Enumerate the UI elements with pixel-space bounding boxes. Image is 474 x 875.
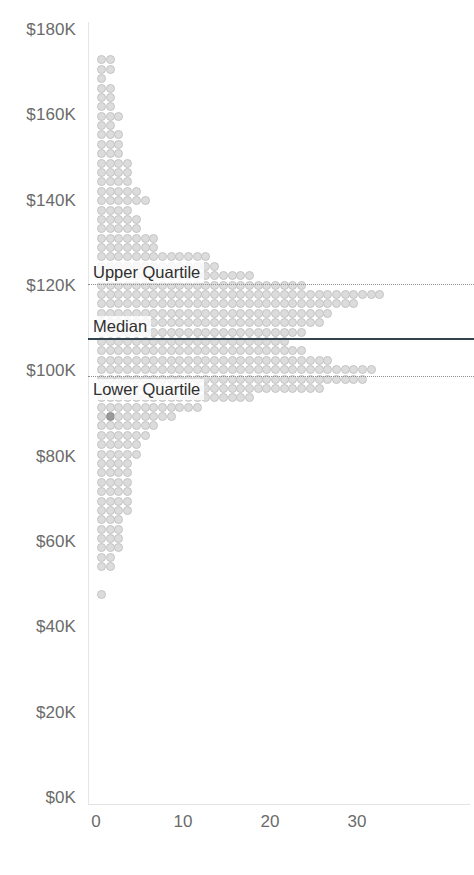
data-point[interactable] — [97, 431, 106, 440]
data-point[interactable] — [280, 346, 289, 355]
data-point[interactable] — [280, 299, 289, 308]
data-point[interactable] — [97, 140, 106, 149]
data-point[interactable] — [97, 206, 106, 215]
data-point[interactable] — [158, 309, 167, 318]
data-point[interactable] — [141, 431, 150, 440]
data-point[interactable] — [97, 215, 106, 224]
data-point[interactable] — [175, 346, 184, 355]
data-point[interactable] — [149, 234, 158, 243]
data-point[interactable] — [349, 365, 358, 374]
data-point[interactable] — [175, 365, 184, 374]
data-point[interactable] — [114, 365, 123, 374]
data-point[interactable] — [167, 309, 176, 318]
data-point[interactable] — [123, 403, 132, 412]
data-point[interactable] — [332, 290, 341, 299]
data-point[interactable] — [228, 299, 237, 308]
data-point[interactable] — [141, 299, 150, 308]
data-point[interactable] — [315, 356, 324, 365]
data-point[interactable] — [219, 328, 228, 337]
data-point[interactable] — [271, 384, 280, 393]
data-point[interactable] — [306, 356, 315, 365]
data-point[interactable] — [106, 130, 115, 139]
data-point[interactable] — [306, 384, 315, 393]
data-point[interactable] — [184, 309, 193, 318]
data-point[interactable] — [228, 309, 237, 318]
data-point[interactable] — [167, 403, 176, 412]
data-point[interactable] — [288, 299, 297, 308]
data-point[interactable] — [219, 356, 228, 365]
data-point[interactable] — [236, 365, 245, 374]
data-point[interactable] — [97, 440, 106, 449]
data-point[interactable] — [132, 346, 141, 355]
data-point[interactable] — [97, 290, 106, 299]
data-point[interactable] — [106, 421, 115, 430]
data-point[interactable] — [123, 299, 132, 308]
data-point[interactable] — [149, 346, 158, 355]
data-point[interactable] — [323, 365, 332, 374]
data-point[interactable] — [97, 196, 106, 205]
data-point[interactable] — [97, 252, 106, 261]
data-point[interactable] — [245, 365, 254, 374]
data-point[interactable] — [306, 290, 315, 299]
data-point[interactable] — [114, 525, 123, 534]
data-point[interactable] — [297, 318, 306, 327]
data-point[interactable] — [123, 487, 132, 496]
data-point[interactable] — [219, 393, 228, 402]
data-point[interactable] — [201, 318, 210, 327]
data-point[interactable] — [271, 356, 280, 365]
data-point[interactable] — [132, 440, 141, 449]
data-point[interactable] — [106, 431, 115, 440]
data-point[interactable] — [132, 431, 141, 440]
data-point[interactable] — [106, 84, 115, 93]
data-point[interactable] — [184, 346, 193, 355]
data-point[interactable] — [167, 356, 176, 365]
data-point[interactable] — [114, 356, 123, 365]
data-point[interactable] — [97, 525, 106, 534]
data-point[interactable] — [114, 243, 123, 252]
data-point[interactable] — [219, 309, 228, 318]
data-point[interactable] — [106, 459, 115, 468]
data-point[interactable] — [123, 290, 132, 299]
data-point[interactable] — [97, 243, 106, 252]
data-point[interactable] — [210, 365, 219, 374]
data-point[interactable] — [271, 365, 280, 374]
data-point[interactable] — [184, 290, 193, 299]
data-point[interactable] — [132, 215, 141, 224]
data-point[interactable] — [114, 252, 123, 261]
data-point[interactable] — [123, 450, 132, 459]
data-point[interactable] — [114, 412, 123, 421]
data-point[interactable] — [219, 299, 228, 308]
data-point[interactable] — [245, 384, 254, 393]
data-point[interactable] — [262, 356, 271, 365]
data-point[interactable] — [254, 299, 263, 308]
data-point[interactable] — [114, 130, 123, 139]
data-point[interactable] — [167, 346, 176, 355]
data-point[interactable] — [175, 309, 184, 318]
data-point[interactable] — [132, 243, 141, 252]
data-point[interactable] — [306, 318, 315, 327]
data-point[interactable] — [123, 459, 132, 468]
data-point[interactable] — [184, 328, 193, 337]
data-point[interactable] — [288, 290, 297, 299]
data-point[interactable] — [288, 328, 297, 337]
data-point[interactable] — [114, 450, 123, 459]
data-point[interactable] — [97, 543, 106, 552]
data-point[interactable] — [323, 309, 332, 318]
data-point[interactable] — [245, 356, 254, 365]
data-point[interactable] — [97, 168, 106, 177]
data-point[interactable] — [297, 384, 306, 393]
data-point[interactable] — [106, 187, 115, 196]
data-point[interactable] — [106, 149, 115, 158]
data-point[interactable] — [228, 281, 237, 290]
data-point[interactable] — [271, 346, 280, 355]
data-point[interactable] — [341, 365, 350, 374]
data-point[interactable] — [106, 168, 115, 177]
data-point[interactable] — [97, 84, 106, 93]
data-point[interactable] — [210, 393, 219, 402]
data-point[interactable] — [167, 290, 176, 299]
data-point[interactable] — [106, 468, 115, 477]
data-point[interactable] — [97, 478, 106, 487]
data-point[interactable] — [201, 290, 210, 299]
data-point[interactable] — [219, 290, 228, 299]
data-point[interactable] — [158, 346, 167, 355]
